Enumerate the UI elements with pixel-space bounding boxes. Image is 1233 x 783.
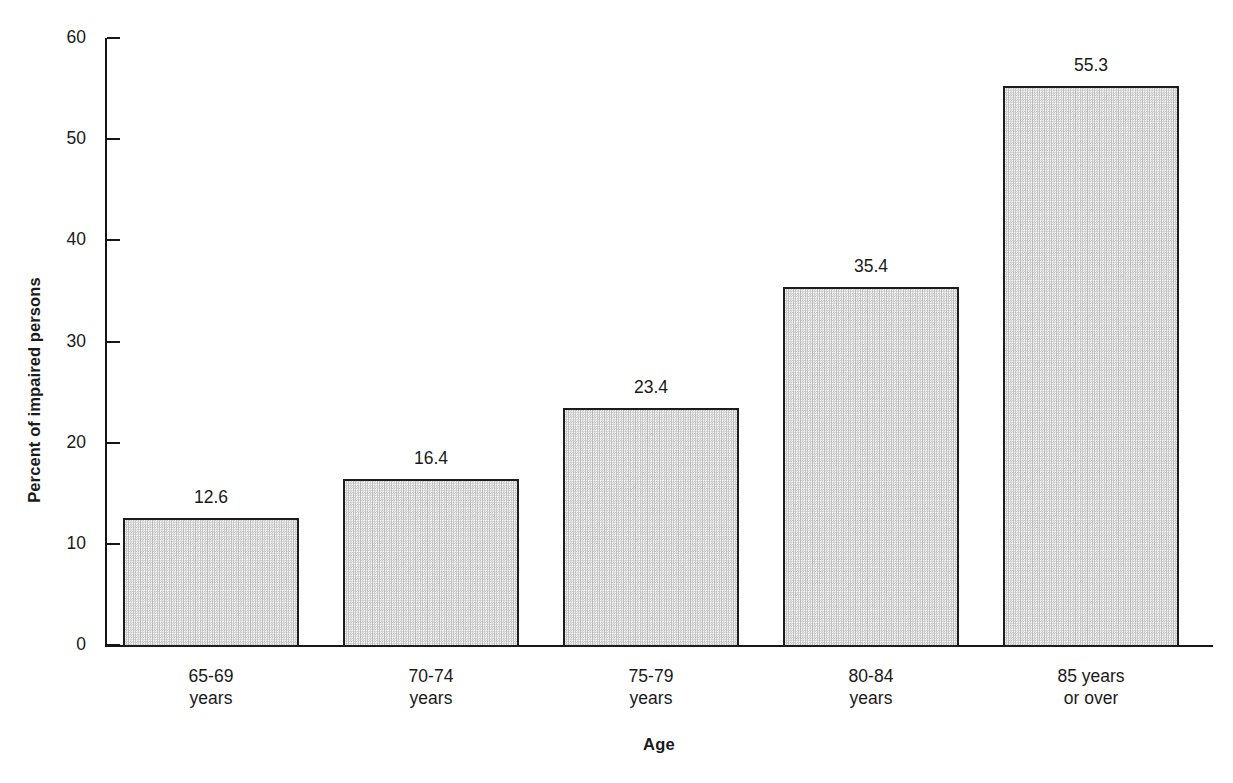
y-axis-tick-label: 30: [42, 333, 86, 351]
bar-value-label: 16.4: [343, 450, 519, 468]
x-axis-tick-label-line: years: [321, 687, 541, 709]
y-axis-title: Percent of impaired persons: [17, 240, 51, 540]
y-axis-tick-label: 20: [42, 434, 86, 452]
y-axis-tick-label: 10: [42, 535, 86, 553]
x-axis-tick-label: 80-84years: [761, 665, 981, 710]
x-axis-tick-label: 65-69years: [101, 665, 321, 710]
bar[interactable]: [123, 518, 299, 647]
x-axis-tick-label: 85 yearsor over: [981, 665, 1201, 710]
x-axis-tick-label-line: 80-84: [761, 665, 981, 687]
bar-value-label: 35.4: [783, 258, 959, 276]
x-axis-tick-label: 75-79years: [541, 665, 761, 710]
x-axis-tick-label-line: 65-69: [101, 665, 321, 687]
y-axis-tick-label: 60: [42, 29, 86, 47]
bar[interactable]: [343, 479, 519, 647]
bar[interactable]: [563, 408, 739, 647]
bar-value-label: 12.6: [123, 489, 299, 507]
y-axis-tick-label-wrap: 60: [42, 29, 86, 47]
y-axis-tick-label-wrap: 40: [42, 231, 86, 249]
x-axis-tick-label-line: years: [101, 687, 321, 709]
y-axis-tick-label-wrap: 30: [42, 333, 86, 351]
bar-value-label: 23.4: [563, 379, 739, 397]
x-axis-tick-label-line: 70-74: [321, 665, 541, 687]
bar-chart-figure: Percent of impaired persons 010203040506…: [0, 0, 1233, 783]
bar[interactable]: [1003, 86, 1179, 647]
x-axis-tick-label-line: years: [761, 687, 981, 709]
y-axis-tick-label-wrap: 10: [42, 535, 86, 553]
bar-value-label: 55.3: [1003, 57, 1179, 75]
x-axis-tick-label-line: years: [541, 687, 761, 709]
x-axis-tick-label: 70-74years: [321, 665, 541, 710]
y-axis-tick-label-wrap: 0: [42, 636, 86, 654]
y-axis-tick-label-wrap: 50: [42, 130, 86, 148]
y-axis-tick-label: 40: [42, 231, 86, 249]
bar[interactable]: [783, 287, 959, 647]
x-axis-tick-label-line: 85 years: [981, 665, 1201, 687]
x-axis-title: Age: [105, 735, 1213, 754]
y-axis-tick-label-wrap: 20: [42, 434, 86, 452]
y-axis-tick-label: 0: [42, 636, 86, 654]
x-axis-tick-label-line: or over: [981, 687, 1201, 709]
x-axis-tick-label-line: 75-79: [541, 665, 761, 687]
y-axis-tick-label: 50: [42, 130, 86, 148]
plot-area: 12.616.423.435.455.3: [105, 38, 1213, 645]
